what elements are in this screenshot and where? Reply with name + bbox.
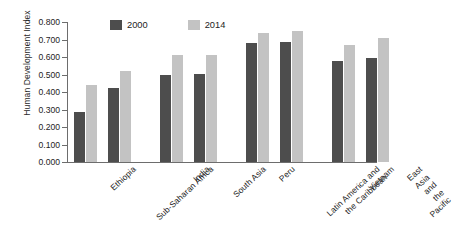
x-axis-tick-label: South Asia (231, 164, 268, 200)
y-axis-tick-label: 0.400 (2, 87, 60, 97)
legend-swatch-2014 (188, 20, 200, 30)
bar-2014 (86, 85, 97, 162)
legend-swatch-2000 (110, 20, 122, 30)
bar-2014 (378, 38, 389, 162)
x-axis-line (67, 162, 377, 163)
y-axis-tick (62, 57, 67, 58)
bar-2000 (74, 112, 85, 162)
bar-2000 (108, 88, 119, 162)
bar-2000 (160, 75, 171, 163)
y-axis-tick-label: 0.200 (2, 122, 60, 132)
y-axis-tick (62, 110, 67, 111)
bar-2000 (332, 61, 343, 162)
plot-area (68, 22, 368, 162)
x-axis-tick-labels: EthiopiaSub-Saharan AfricaIndiaSouth Asi… (0, 164, 387, 248)
y-axis-tick-label: 0.300 (2, 105, 60, 115)
y-axis-tick (62, 127, 67, 128)
x-axis-tick-label: Peru (277, 164, 297, 184)
bar-2014 (206, 55, 217, 162)
bar-2000 (194, 74, 205, 162)
y-axis-tick-labels: 0.0000.1000.2000.3000.4000.5000.6000.700… (0, 22, 60, 163)
legend-item-2014: 2014 (188, 20, 226, 30)
bar-2014 (120, 71, 131, 162)
y-axis-tick-label: 0.600 (2, 52, 60, 62)
bar-2000 (280, 42, 291, 162)
legend-item-2000: 2000 (110, 20, 148, 30)
x-axis-tick-label: East Asia and the Pacific (399, 164, 453, 220)
bar-2000 (246, 43, 257, 162)
y-axis-tick-label: 0.500 (2, 70, 60, 80)
y-axis-tick (62, 92, 67, 93)
legend-label-2014: 2014 (205, 20, 226, 30)
bar-2014 (292, 31, 303, 162)
bar-2014 (172, 55, 183, 162)
legend-label-2000: 2000 (127, 20, 148, 30)
y-axis-tick (62, 40, 67, 41)
chart-legend: 2000 2014 (110, 20, 225, 30)
y-axis-tick-label: 0.800 (2, 17, 60, 27)
y-axis-tick-label: 0.700 (2, 35, 60, 45)
y-axis-tick (62, 22, 67, 23)
y-axis-tick (62, 75, 67, 76)
bar-2000 (366, 58, 377, 162)
x-axis-tick-label: Ethiopia (108, 164, 138, 193)
bar-2014 (344, 45, 355, 162)
y-axis-tick (62, 145, 67, 146)
y-axis-tick-label: 0.100 (2, 140, 60, 150)
bar-2014 (258, 33, 269, 163)
y-axis-tick (62, 162, 67, 163)
